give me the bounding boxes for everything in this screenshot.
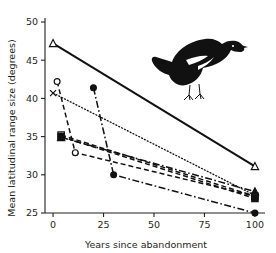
y-tick-label: 35 bbox=[26, 131, 38, 142]
line-series-filled-triangle-dashdot bbox=[61, 137, 255, 191]
data-point-filled-square bbox=[58, 133, 64, 139]
series-cross-dotted bbox=[50, 90, 258, 198]
data-point-filled-square bbox=[252, 195, 258, 201]
data-point-filled-circle bbox=[111, 172, 117, 178]
chart-canvas: Mean latitudinal range size (degrees) Ye… bbox=[0, 0, 276, 253]
y-tick-label: 45 bbox=[26, 55, 38, 66]
data-point-open-circle bbox=[72, 150, 78, 156]
y-axis-title: Mean latitudinal range size (degrees) bbox=[6, 39, 17, 216]
data-point-open-triangle bbox=[251, 163, 258, 170]
y-tick-label: 30 bbox=[26, 169, 38, 180]
y-tick-label: 25 bbox=[26, 207, 38, 218]
y-tick-label: 40 bbox=[26, 93, 38, 104]
x-tick-label: 50 bbox=[148, 219, 160, 230]
line-series-open-circle-dashed bbox=[57, 82, 255, 197]
x-tick-label: 100 bbox=[246, 219, 264, 230]
line-series-open-square-dashed bbox=[61, 135, 255, 196]
x-tick-label: 75 bbox=[198, 219, 210, 230]
bird-silhouette-icon bbox=[152, 39, 248, 100]
series-filled-circle-dashdot bbox=[91, 85, 258, 216]
data-point-filled-circle bbox=[91, 85, 97, 91]
y-tick-label: 50 bbox=[26, 16, 38, 27]
x-axis-title: Years since abandonment bbox=[84, 239, 207, 250]
data-point-filled-circle bbox=[252, 210, 258, 216]
data-series-group bbox=[49, 40, 258, 216]
x-tick-label: 25 bbox=[97, 219, 109, 230]
line-series-filled-circle-dashdot bbox=[93, 88, 254, 213]
data-point-open-triangle bbox=[49, 40, 56, 47]
data-point-cross bbox=[50, 90, 56, 96]
series-open-square-dashed bbox=[58, 132, 258, 200]
figure-panel: Mean latitudinal range size (degrees) Ye… bbox=[0, 0, 276, 253]
data-point-filled-triangle bbox=[251, 188, 258, 195]
x-tick-label: 0 bbox=[50, 219, 56, 230]
data-point-open-circle bbox=[54, 79, 60, 85]
